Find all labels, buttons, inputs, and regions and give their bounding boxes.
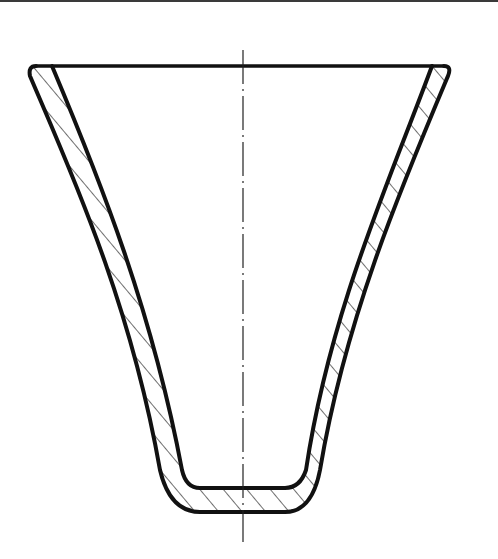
- section-drawing: [0, 0, 498, 559]
- outer-profile: [30, 66, 450, 512]
